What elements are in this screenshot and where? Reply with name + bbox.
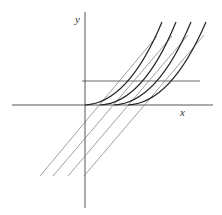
parabolas — [85, 22, 206, 105]
tangent-line — [40, 36, 157, 176]
parabola-curve — [100, 22, 176, 105]
diagram-canvas: y x — [0, 0, 222, 215]
parabola-curve — [128, 22, 206, 105]
y-axis-label: y — [74, 13, 80, 25]
tangent-line — [53, 36, 172, 176]
x-axis-label: x — [179, 106, 185, 118]
tangent-line — [84, 35, 204, 176]
